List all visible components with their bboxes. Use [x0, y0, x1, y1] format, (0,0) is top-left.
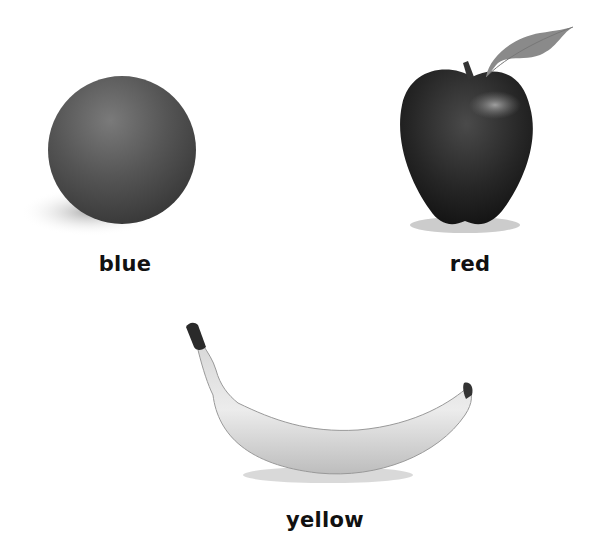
ball-image	[20, 60, 220, 260]
apple-image	[390, 25, 580, 240]
ball-label: blue	[70, 252, 180, 276]
banana-label: yellow	[270, 508, 380, 532]
ball-card: blue red	[0, 0, 613, 534]
apple-label: red	[420, 252, 520, 276]
banana-image	[178, 315, 478, 485]
